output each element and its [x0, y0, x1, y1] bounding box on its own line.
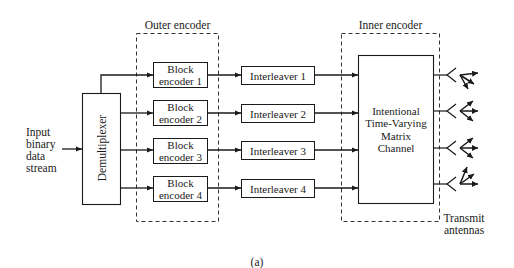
figure-caption: (a) — [242, 256, 272, 268]
interleaver-3-label: Interleaver 3 — [242, 142, 314, 159]
block-encoder-4-label: Block encoder 4 — [154, 177, 207, 201]
transmit-antennas-label: Transmit antennas — [439, 212, 489, 236]
antenna-3 — [434, 141, 456, 155]
matrix-channel-label: Intentional Time-Varying Matrix Channel — [359, 56, 433, 203]
radiation-arrows-3 — [460, 138, 478, 158]
interleaver-1-label: Interleaver 1 — [242, 67, 314, 84]
block-encoder-1-label: Block encoder 1 — [154, 63, 207, 87]
antenna-2 — [434, 104, 456, 118]
antenna-4 — [434, 177, 456, 191]
block-encoder-2-label: Block encoder 2 — [154, 101, 207, 125]
demux-to-encoder-1-arrow — [101, 75, 153, 93]
antenna-1 — [434, 68, 456, 82]
interleaver-2-label: Interleaver 2 — [242, 105, 314, 122]
radiation-arrows-1 — [460, 73, 478, 89]
input-stream-label: Input binary data stream — [26, 126, 57, 174]
demultiplexer-label: Demultiplexer — [96, 98, 108, 198]
outer-encoder-title: Outer encoder — [136, 19, 219, 31]
block-encoder-3-label: Block encoder 3 — [154, 139, 207, 163]
inner-encoder-title: Inner encoder — [341, 19, 440, 31]
diagram-canvas — [0, 0, 514, 268]
interleaver-4-label: Interleaver 4 — [242, 180, 314, 197]
radiation-arrows-4 — [460, 167, 478, 184]
radiation-arrows-2 — [460, 101, 478, 121]
